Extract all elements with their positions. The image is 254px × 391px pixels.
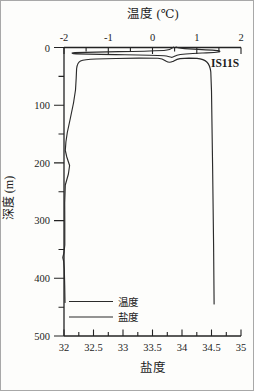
top-axis-title: 温度 (℃) <box>127 6 178 21</box>
legend-label-salinity: 盐度 <box>118 311 139 323</box>
top-tick-label: -1 <box>104 32 113 43</box>
left-axis-tick-labels: 0 100 200 300 400 500 <box>34 43 50 342</box>
bottom-tick-label: 33 <box>118 342 129 353</box>
profile-figure: 温度 (℃) -2 -1 0 1 2 <box>0 0 254 391</box>
left-tick-label: 500 <box>34 331 50 342</box>
legend-label-temperature: 温度 <box>118 296 139 308</box>
top-tick-label: 2 <box>238 32 243 43</box>
top-tick-label: 1 <box>194 32 199 43</box>
bottom-tick-label: 34 <box>177 342 188 353</box>
bottom-axis-title: 盐度 <box>140 360 166 375</box>
surface-layer-curve <box>72 47 220 57</box>
deep-profile-curve <box>63 58 214 304</box>
top-axis-tick-labels: -2 -1 0 1 2 <box>60 32 244 43</box>
left-axis-ticks <box>54 48 64 337</box>
left-tick-label: 200 <box>34 158 50 169</box>
top-tick-label: -2 <box>60 32 69 43</box>
station-label: IS11S <box>211 57 239 69</box>
left-axis-title: 深度 (m) <box>1 176 16 220</box>
profile-chart: 温度 (℃) -2 -1 0 1 2 <box>1 1 254 391</box>
top-tick-label: 0 <box>150 32 155 43</box>
bottom-axis-tick-labels: 32 32.5 33 33.5 34 34.5 35 <box>59 342 247 353</box>
bottom-tick-label: 34.5 <box>202 342 220 353</box>
left-tick-label: 400 <box>34 273 50 284</box>
left-tick-label: 300 <box>34 215 50 226</box>
bottom-axis-ticks <box>64 330 241 337</box>
bottom-tick-label: 32.5 <box>84 342 102 353</box>
bottom-tick-label: 32 <box>59 342 70 353</box>
legend: 温度 盐度 <box>69 296 139 324</box>
bottom-tick-label: 35 <box>236 342 247 353</box>
left-tick-label: 100 <box>34 100 50 111</box>
bottom-tick-label: 33.5 <box>143 342 161 353</box>
left-tick-label: 0 <box>45 43 50 54</box>
